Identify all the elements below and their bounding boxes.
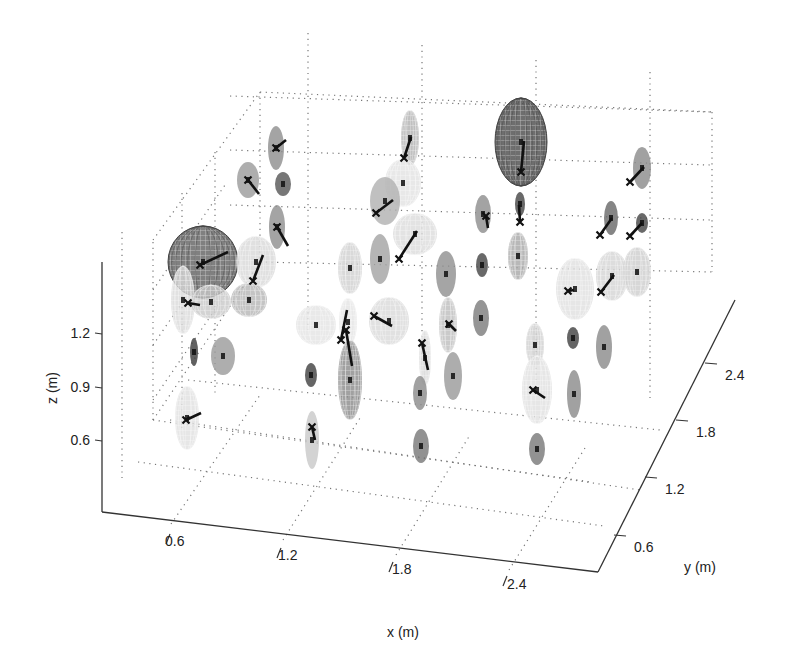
z-tick-label: 0.9 — [71, 379, 91, 395]
ellipsoid — [190, 338, 198, 366]
ellipsoid — [413, 376, 427, 410]
y-tick-label: 1.2 — [665, 481, 685, 497]
z-axis-label: z (m) — [44, 372, 60, 404]
ellipsoid — [305, 363, 317, 387]
figure: 0.61.21.82.40.61.21.82.41.20.90.6 x (m) … — [0, 0, 785, 669]
ellipsoid — [369, 297, 409, 345]
x-tick-label: 1.2 — [278, 547, 298, 563]
ellipsoid — [191, 285, 231, 319]
ellipsoid — [567, 327, 579, 349]
ellipsoid — [436, 251, 456, 297]
ellipsoid — [473, 300, 489, 336]
x-marker-icon — [627, 233, 634, 240]
axis-ticks: 0.61.21.82.40.61.21.82.41.20.90.6 — [71, 325, 745, 592]
x-marker-icon — [627, 179, 634, 186]
ellipsoid — [529, 433, 545, 465]
x-axis-label: x (m) — [387, 624, 419, 640]
y-tick-label: 0.6 — [634, 539, 654, 555]
ellipsoid — [275, 172, 291, 196]
ellipsoid — [296, 305, 336, 345]
ellipsoid — [338, 242, 362, 294]
ellipsoid — [305, 411, 319, 469]
ellipsoid — [370, 234, 390, 284]
ellipsoid — [567, 370, 581, 418]
x-tick-label: 2.4 — [507, 576, 527, 592]
ellipsoid — [211, 337, 235, 375]
x-marker-icon — [396, 256, 403, 263]
ellipsoid — [623, 247, 651, 297]
ellipsoid — [522, 356, 552, 424]
ellipsoid — [444, 352, 462, 400]
y-tick-label: 1.8 — [696, 424, 716, 440]
ellipsoid — [596, 325, 612, 369]
ellipsoid — [231, 283, 267, 317]
ellipsoid — [508, 232, 528, 280]
z-tick-label: 1.2 — [71, 325, 91, 341]
ellipsoid — [556, 258, 594, 320]
z-tick-label: 0.6 — [71, 432, 91, 448]
3d-scatter-plot: 0.61.21.82.40.61.21.82.41.20.90.6 x (m) … — [0, 0, 785, 669]
ellipsoid — [370, 177, 400, 225]
ellipsoid — [413, 429, 429, 463]
x-tick-label: 0.6 — [165, 533, 185, 549]
y-axis-label: y (m) — [684, 559, 716, 575]
x-marker-icon — [597, 232, 604, 239]
y-tick-label: 2.4 — [725, 367, 745, 383]
ellipsoid — [476, 253, 488, 277]
ellipsoid — [236, 236, 276, 288]
x-tick-label: 1.8 — [392, 561, 412, 577]
covariance-ellipsoids — [168, 98, 651, 469]
